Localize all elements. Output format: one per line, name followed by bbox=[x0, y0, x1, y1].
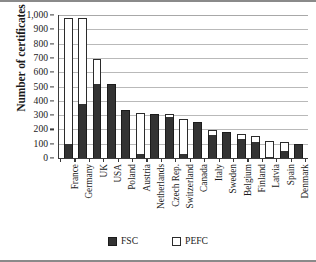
y-tick-mark bbox=[50, 86, 54, 87]
x-label-slot: Poland bbox=[118, 162, 132, 224]
y-tick-mark bbox=[50, 100, 54, 101]
bar-stack[interactable] bbox=[150, 114, 159, 158]
chart-legend: FSC PEFC bbox=[0, 233, 316, 249]
bar-slot bbox=[90, 15, 104, 158]
bar-slot bbox=[75, 15, 89, 158]
bar-slot bbox=[61, 15, 75, 158]
bar-stack[interactable] bbox=[93, 59, 102, 158]
bar-stack[interactable] bbox=[107, 84, 116, 158]
bar-segment-pefc bbox=[265, 141, 274, 157]
x-label-slot: France bbox=[60, 162, 74, 224]
bar-stack[interactable] bbox=[165, 114, 174, 158]
bar-segment-fsc bbox=[294, 144, 303, 158]
y-tick-mark bbox=[50, 43, 54, 44]
bar-stack[interactable] bbox=[121, 110, 130, 158]
bar-stack[interactable] bbox=[64, 18, 73, 158]
x-label-slot: Czech Rep. bbox=[161, 162, 175, 224]
bar-stack[interactable] bbox=[193, 122, 202, 158]
x-tick-label: Denmark bbox=[301, 164, 310, 199]
x-label-slot: Germany bbox=[74, 162, 88, 224]
bar-slot bbox=[263, 15, 277, 158]
y-tick-label: 1,000 bbox=[26, 10, 48, 20]
x-label-slot: Italy bbox=[204, 162, 218, 224]
bar-series-group bbox=[59, 15, 308, 158]
bar-segment-pefc bbox=[64, 18, 73, 144]
x-label-slot: Belgium bbox=[233, 162, 247, 224]
bar-segment-fsc bbox=[64, 144, 73, 158]
x-label-slot: Netherlands bbox=[146, 162, 160, 224]
y-tick-label: 500 bbox=[34, 82, 48, 92]
bar-slot bbox=[104, 15, 118, 158]
bar-slot bbox=[219, 15, 233, 158]
bar-slot bbox=[277, 15, 291, 158]
bar-segment-pefc bbox=[136, 113, 145, 154]
legend-item-fsc[interactable]: FSC bbox=[108, 236, 138, 246]
x-label-slot: Spain bbox=[276, 162, 290, 224]
bar-slot bbox=[191, 15, 205, 158]
y-tick-label: 600 bbox=[34, 67, 48, 77]
x-label-slot: Switzerland bbox=[175, 162, 189, 224]
y-tick-mark bbox=[50, 143, 54, 144]
bar-slot bbox=[119, 15, 133, 158]
bar-stack[interactable] bbox=[222, 132, 231, 158]
x-label-slot: Canada bbox=[190, 162, 204, 224]
x-label-slot: UK bbox=[89, 162, 103, 224]
bar-stack[interactable] bbox=[136, 113, 145, 158]
legend-label-fsc: FSC bbox=[121, 236, 138, 246]
bar-segment-fsc bbox=[93, 84, 102, 158]
bar-slot bbox=[176, 15, 190, 158]
bar-slot bbox=[147, 15, 161, 158]
bar-segment-fsc bbox=[121, 110, 130, 158]
y-tick-mark bbox=[50, 57, 54, 58]
y-tick-mark bbox=[50, 29, 54, 30]
chart-figure: Number of certificates 01002003004005006… bbox=[0, 0, 316, 262]
y-tick-label: 100 bbox=[34, 139, 48, 149]
y-tick-mark bbox=[50, 72, 54, 73]
bar-stack[interactable] bbox=[78, 18, 87, 158]
bar-segment-fsc bbox=[280, 151, 289, 158]
y-tick-label: 900 bbox=[34, 25, 48, 35]
legend-swatch-pefc-icon bbox=[172, 237, 181, 246]
y-tick-label: 0 bbox=[43, 153, 48, 163]
bar-stack[interactable] bbox=[265, 141, 274, 158]
bar-segment-fsc bbox=[165, 117, 174, 158]
bar-segment-pefc bbox=[78, 18, 87, 105]
bar-stack[interactable] bbox=[294, 144, 303, 158]
bar-slot bbox=[234, 15, 248, 158]
y-tick-mark bbox=[50, 157, 54, 158]
bar-stack[interactable] bbox=[237, 134, 246, 158]
bar-segment-fsc bbox=[107, 84, 116, 158]
bar-stack[interactable] bbox=[179, 119, 188, 158]
bar-segment-pefc bbox=[93, 59, 102, 84]
bar-slot bbox=[162, 15, 176, 158]
bar-stack[interactable] bbox=[280, 142, 289, 158]
bar-slot bbox=[205, 15, 219, 158]
bar-stack[interactable] bbox=[208, 130, 217, 158]
bar-slot bbox=[292, 15, 306, 158]
bar-segment-fsc bbox=[237, 139, 246, 158]
y-tick-label: 400 bbox=[34, 96, 48, 106]
legend-label-pefc: PEFC bbox=[185, 236, 208, 246]
y-axis-tick-labels: 01002003004005006007008009001,000 bbox=[0, 2, 56, 158]
bar-segment-pefc bbox=[179, 119, 188, 153]
y-tick-label: 700 bbox=[34, 53, 48, 63]
y-tick-label: 300 bbox=[34, 110, 48, 120]
y-tick-mark bbox=[50, 14, 54, 15]
y-tick-label: 200 bbox=[34, 125, 48, 135]
bar-segment-fsc bbox=[193, 122, 202, 158]
bar-segment-fsc bbox=[150, 114, 159, 158]
bar-segment-fsc bbox=[251, 142, 260, 158]
legend-item-pefc[interactable]: PEFC bbox=[172, 236, 208, 246]
legend-swatch-fsc-icon bbox=[108, 237, 117, 246]
y-tick-label: 800 bbox=[34, 39, 48, 49]
bar-segment-fsc bbox=[222, 132, 231, 158]
x-label-slot: USA bbox=[103, 162, 117, 224]
y-tick-mark bbox=[50, 129, 54, 130]
bar-slot bbox=[248, 15, 262, 158]
x-label-slot: Latvia bbox=[262, 162, 276, 224]
bar-stack[interactable] bbox=[251, 136, 260, 158]
x-label-slot: Sweden bbox=[218, 162, 232, 224]
x-label-slot: Finland bbox=[247, 162, 261, 224]
bar-slot bbox=[133, 15, 147, 158]
y-tick-mark bbox=[50, 115, 54, 116]
